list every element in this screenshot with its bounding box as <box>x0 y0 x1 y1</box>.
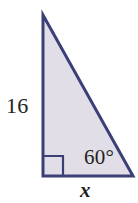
vertical-leg-length-label: 16 <box>6 95 29 117</box>
geometry-figure: 16 60° x <box>0 0 138 203</box>
interior-angle-label: 60° <box>84 147 114 168</box>
base-length-label: x <box>80 180 91 201</box>
